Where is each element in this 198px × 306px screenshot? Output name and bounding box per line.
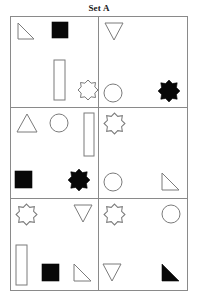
eight-point-star-filled — [67, 168, 91, 192]
circle-outline — [103, 172, 123, 192]
eight-point-star-outline — [77, 79, 99, 101]
grid-cell-middle-left — [11, 108, 99, 199]
square-filled — [14, 170, 33, 189]
circle-outline — [49, 113, 69, 133]
down-triangle-outline — [73, 204, 93, 223]
down-triangle-outline — [102, 263, 122, 282]
eight-point-star-outline — [103, 203, 126, 226]
figure-title: Set A — [0, 2, 198, 14]
grid-cell-top-right — [99, 17, 187, 108]
set-a-figure: Set A — [0, 0, 198, 306]
square-filled — [51, 21, 69, 39]
right-triangle-outline — [161, 172, 180, 191]
up-triangle-outline — [16, 113, 38, 133]
circle-outline — [103, 83, 123, 103]
rectangle-vertical-outline — [53, 59, 67, 101]
shape-grid — [10, 16, 188, 291]
rectangle-vertical-outline — [15, 244, 29, 286]
circle-outline — [161, 204, 181, 224]
eight-point-star-outline — [15, 203, 38, 226]
eight-point-star-filled — [157, 79, 181, 103]
grid-cell-middle-right — [99, 108, 187, 199]
down-triangle-outline — [104, 22, 124, 41]
grid-cell-bottom-left — [11, 199, 99, 290]
grid-cell-bottom-right — [99, 199, 187, 290]
grid-cell-top-left — [11, 17, 99, 108]
right-triangle-outline — [17, 22, 35, 40]
rectangle-vertical-outline — [83, 112, 96, 157]
eight-point-star-outline — [103, 112, 126, 135]
right-triangle-outline — [73, 263, 92, 282]
square-filled — [41, 263, 60, 282]
right-triangle-filled — [161, 263, 180, 282]
